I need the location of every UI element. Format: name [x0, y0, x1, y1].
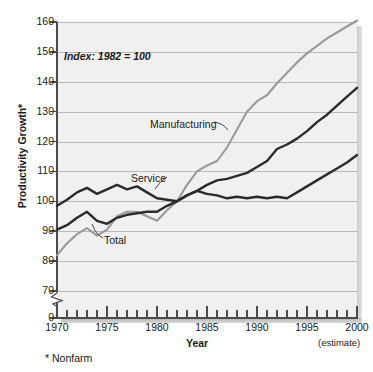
x-axis-title: Year	[186, 337, 208, 349]
y-tick-label-70: 70	[42, 285, 54, 295]
x-tick-1990	[256, 306, 257, 317]
plot-area	[57, 22, 357, 318]
gridline-110	[57, 171, 357, 172]
x-axis-line	[56, 317, 358, 319]
x-tick-1982	[176, 310, 177, 317]
x-tick-label-1970: 1970	[37, 321, 77, 333]
y-axis-title: Productivity Growth*	[16, 86, 28, 226]
x-tick-1979	[146, 310, 147, 317]
x-tick-1971	[66, 310, 67, 317]
y-tick-label-150: 150	[36, 46, 54, 56]
x-tick-1989	[246, 310, 247, 317]
x-tick-label-1975: 1975	[87, 321, 127, 333]
x-tick-1970	[56, 306, 57, 317]
gridline-140	[57, 82, 357, 83]
gridline-120	[57, 142, 357, 143]
gridline-90	[57, 231, 357, 232]
x-tick-1996	[316, 310, 317, 317]
y-tick-label-80: 80	[42, 255, 54, 265]
x-tick-1993	[286, 310, 287, 317]
y-tick-label-120: 120	[36, 136, 54, 146]
gridline-160	[57, 22, 357, 23]
x-tick-1991	[266, 310, 267, 317]
x-tick-1995	[306, 306, 307, 317]
y-tick-label-130: 130	[36, 106, 54, 116]
gridline-70	[57, 291, 357, 292]
x-tick-label-1990: 1990	[237, 321, 277, 333]
series-label-manufacturing: Manufacturing	[150, 118, 217, 130]
x-tick-1977	[126, 310, 127, 317]
x-tick-1988	[236, 310, 237, 317]
x-tick-1987	[226, 310, 227, 317]
x-tick-1981	[166, 310, 167, 317]
x-tick-1978	[136, 310, 137, 317]
x-tick-label-2000: 2000	[337, 321, 373, 333]
x-tick-label-1985: 1985	[187, 321, 227, 333]
x-tick-1974	[96, 310, 97, 317]
plot-right-shadow	[357, 26, 362, 322]
x-tick-1972	[76, 310, 77, 317]
x-tick-1985	[206, 306, 207, 317]
y-tick-label-140: 140	[36, 76, 54, 86]
x-tick-1994	[296, 310, 297, 317]
x-tick-1992	[276, 310, 277, 317]
footnote-nonfarm: * Nonfarm	[45, 352, 92, 364]
x-tick-1980	[156, 306, 157, 317]
gridline-100	[57, 201, 357, 202]
x-tick-1976	[116, 310, 117, 317]
y-tick-label-100: 100	[36, 195, 54, 205]
y-tick-label-160: 160	[36, 16, 54, 26]
index-base-note: Index: 1982 = 100	[64, 50, 151, 62]
x-tick-1999	[346, 310, 347, 317]
x-tick-1973	[86, 310, 87, 317]
gridline-80	[57, 261, 357, 262]
estimate-note: (estimate)	[318, 337, 360, 348]
x-tick-1984	[196, 310, 197, 317]
x-tick-1998	[336, 310, 337, 317]
gridline-130	[57, 112, 357, 113]
x-tick-label-1995: 1995	[287, 321, 327, 333]
x-tick-label-1980: 1980	[137, 321, 177, 333]
x-tick-1986	[216, 310, 217, 317]
x-tick-1975	[106, 306, 107, 317]
series-label-service: Service	[131, 172, 166, 184]
y-axis-line	[56, 22, 58, 291]
y-tick-label-110: 110	[37, 165, 54, 175]
x-tick-1997	[326, 310, 327, 317]
y-tick-label-90: 90	[42, 225, 54, 235]
series-label-total: Total	[104, 234, 126, 246]
x-tick-1983	[186, 310, 187, 317]
x-tick-2000	[356, 306, 357, 317]
